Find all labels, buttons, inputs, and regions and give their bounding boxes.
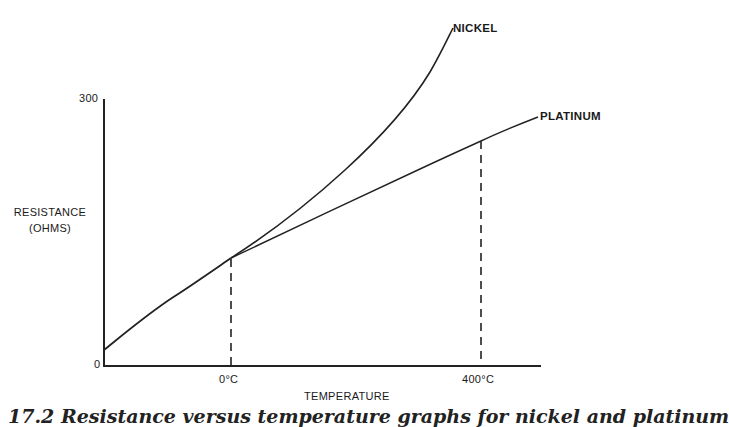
platinum-label: PLATINUM: [540, 110, 601, 122]
shared-curve-segment: [104, 258, 231, 350]
platinum-curve: [231, 117, 538, 258]
y-axis-label: RESISTANCE (OHMS): [0, 204, 100, 236]
figure-caption: 17.2 Resistance versus temperature graph…: [8, 405, 729, 427]
y-axis-label-line1: RESISTANCE: [0, 204, 100, 220]
y-tick-300: 300: [79, 92, 98, 104]
nickel-label: NICKEL: [453, 22, 498, 34]
nickel-curve: [231, 28, 453, 258]
x-tick-0c: 0°C: [219, 373, 238, 385]
y-axis-label-line2: (OHMS): [0, 220, 100, 236]
y-tick-0: 0: [94, 358, 100, 370]
x-tick-400c: 400°C: [462, 373, 494, 385]
x-axis-label: TEMPERATURE: [304, 390, 390, 402]
